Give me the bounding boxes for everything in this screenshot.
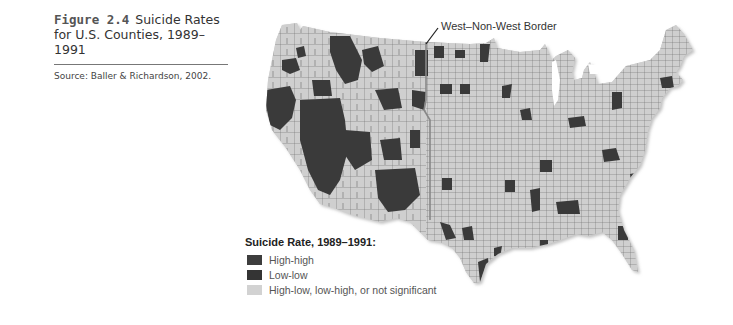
legend-swatch-high-high	[247, 255, 262, 265]
map-legend: Suicide Rate, 1989–1991: High-high Low-l…	[245, 236, 437, 298]
legend-swatch-low-low	[247, 270, 262, 280]
legend-item-low-low: Low-low	[245, 268, 437, 282]
legend-item-high-high: High-high	[245, 253, 437, 267]
legend-swatch-not-significant	[247, 285, 262, 295]
legend-title: Suicide Rate, 1989–1991:	[245, 236, 437, 248]
annotation-leader-line	[426, 28, 438, 44]
west-border-annotation: West–Non-West Border	[441, 20, 557, 32]
legend-label: High-high	[269, 254, 314, 266]
legend-label: High-low, low-high, or not significant	[269, 284, 437, 296]
legend-item-not-significant: High-low, low-high, or not significant	[245, 283, 437, 297]
legend-label: Low-low	[269, 269, 308, 281]
